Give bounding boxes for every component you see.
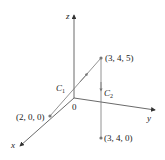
point-label-2-0-0: (2, 0, 0) bbox=[16, 112, 45, 122]
z-axis-label: z bbox=[65, 11, 70, 21]
point-label-3-4-0: (3, 4, 0) bbox=[104, 133, 133, 143]
c1-direction-arrow bbox=[80, 74, 87, 82]
c1-label: C1 bbox=[56, 83, 65, 94]
x-axis-label: x bbox=[10, 140, 15, 150]
point-label-3-4-5: (3, 4, 5) bbox=[105, 53, 134, 63]
point-3-4-5 bbox=[99, 56, 102, 59]
y-axis bbox=[74, 98, 155, 110]
x-axis bbox=[20, 98, 74, 146]
point-3-4-0 bbox=[99, 136, 102, 139]
origin-label: 0 bbox=[72, 102, 77, 112]
y-axis-label: y bbox=[146, 113, 151, 123]
c2-label: C2 bbox=[104, 88, 113, 99]
point-2-0-0 bbox=[48, 114, 51, 117]
diagram-canvas: z y x 0 (3, 4, 5) (3, 4, 0) (2, 0, 0) C1… bbox=[0, 0, 165, 160]
